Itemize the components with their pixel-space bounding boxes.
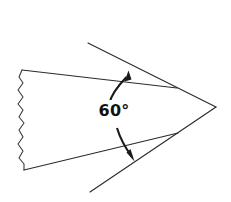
wedge-top-edge bbox=[22, 70, 177, 88]
wedge-bottom-edge bbox=[24, 133, 178, 170]
angle-arrow-head-upper-icon bbox=[125, 71, 132, 82]
break-line-icon bbox=[18, 70, 24, 170]
geometry-diagram: 60° bbox=[0, 0, 231, 202]
upper-extension-line bbox=[88, 43, 216, 107]
angle-label: 60° bbox=[99, 101, 130, 120]
diagram-canvas: 60° bbox=[0, 0, 231, 202]
